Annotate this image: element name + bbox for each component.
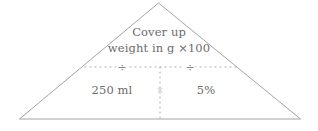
weight-formula-label: weight in g ×100 xyxy=(108,43,210,55)
dosage-triangle-figure: Cover up weight in g ×100 ÷ ÷ 250 ml × 5… xyxy=(0,0,318,131)
divide-icon-left: ÷ xyxy=(116,62,127,73)
divide-icon-right: ÷ xyxy=(184,62,195,73)
volume-value-label: 250 ml xyxy=(92,85,133,97)
cover-up-label: Cover up xyxy=(132,27,186,39)
multiply-icon-center: × xyxy=(156,86,164,95)
triangle-diagram xyxy=(0,0,318,131)
concentration-value-label: 5% xyxy=(197,85,215,97)
